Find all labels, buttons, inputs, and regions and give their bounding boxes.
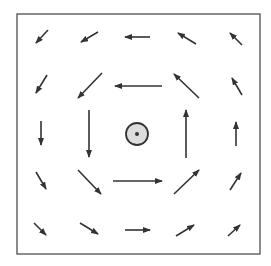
field-arrow-icon (36, 30, 48, 43)
center-source (126, 123, 148, 145)
field-arrow-icon (174, 170, 199, 194)
field-arrow-icon (228, 225, 240, 236)
field-arrow-icon (78, 170, 101, 194)
field-arrow-icon (230, 173, 241, 190)
field-arrow-icon (78, 73, 102, 98)
field-arrow-icon (81, 32, 98, 42)
field-arrow-icon (36, 75, 47, 93)
field-arrow-icon (178, 33, 196, 44)
field-arrow-icon (232, 78, 242, 95)
field-arrow-icon (230, 33, 242, 45)
field-arrow-icon (176, 225, 194, 236)
field-arrow-icon (80, 223, 98, 234)
center-dot-icon (135, 132, 139, 136)
field-arrow-icon (174, 74, 199, 98)
vector-field-diagram (0, 0, 271, 266)
field-arrow-icon (36, 172, 46, 189)
field-arrow-icon (34, 223, 46, 235)
